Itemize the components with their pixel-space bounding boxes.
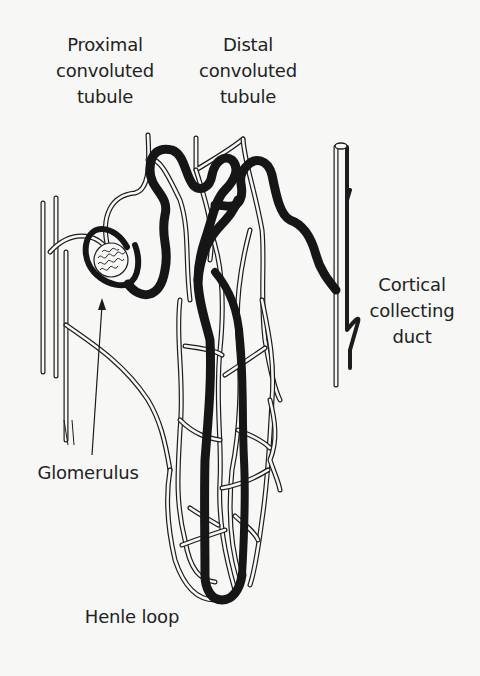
label-line: tubule xyxy=(188,84,308,110)
leader-lines xyxy=(64,298,106,455)
label-line: convoluted xyxy=(188,58,308,84)
label-line: duct xyxy=(362,324,462,350)
label-cortical-collecting-duct: Cortical collecting duct xyxy=(362,272,462,350)
label-line: Distal xyxy=(188,32,308,58)
nephron-diagram-page: Proximal convoluted tubule Distal convol… xyxy=(0,0,480,676)
label-distal-convoluted-tubule: Distal convoluted tubule xyxy=(188,32,308,110)
label-proximal-convoluted-tubule: Proximal convoluted tubule xyxy=(45,32,165,110)
label-henle-loop: Henle loop xyxy=(72,604,192,630)
label-line: Cortical xyxy=(362,272,462,298)
glomerulus-tuft xyxy=(94,243,128,277)
label-line: Proximal xyxy=(45,32,165,58)
label-line: tubule xyxy=(45,84,165,110)
collecting-duct xyxy=(335,143,358,385)
label-line: Henle loop xyxy=(72,604,192,630)
peritubular-capillaries xyxy=(106,135,280,600)
label-line: collecting xyxy=(362,298,462,324)
label-line: convoluted xyxy=(45,58,165,84)
label-line: Glomerulus xyxy=(28,460,148,486)
label-glomerulus: Glomerulus xyxy=(28,460,148,486)
